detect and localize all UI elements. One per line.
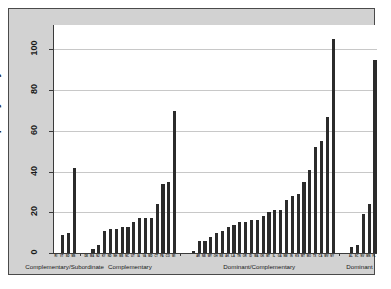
y-tick-label: 60 [29, 119, 39, 141]
bar [126, 227, 129, 253]
y-tick-label: 100 [29, 37, 39, 59]
bar [150, 218, 153, 253]
gridline [54, 90, 377, 91]
x-tick-label: FL [369, 255, 379, 259]
bar [291, 196, 294, 253]
bar [332, 39, 335, 253]
bar [244, 222, 247, 253]
bar [144, 218, 147, 253]
bar [61, 235, 64, 253]
bar [308, 170, 311, 253]
bar [173, 111, 176, 254]
y-axis-title: Number of policy analysts [0, 9, 3, 237]
bar [67, 233, 70, 253]
bar [368, 204, 371, 253]
bar [132, 222, 135, 253]
gridline [54, 49, 377, 50]
bar [227, 227, 230, 253]
group-separator [339, 253, 340, 256]
bar [103, 231, 106, 253]
y-tick-label: 20 [29, 200, 39, 222]
bar [320, 141, 323, 253]
bar [203, 241, 206, 253]
bar [267, 212, 270, 253]
bar [138, 218, 141, 253]
bar [215, 233, 218, 253]
group-label: Complementary/Subordinate [25, 263, 104, 270]
bar [97, 245, 100, 253]
bar [285, 200, 288, 253]
group-label: Dominant [346, 263, 372, 270]
y-tick-label: 80 [29, 78, 39, 100]
bar [156, 204, 159, 253]
bar [279, 210, 282, 253]
x-tick-label: MS [68, 255, 78, 259]
x-axis-line [53, 253, 377, 254]
bar [198, 241, 201, 253]
bar [238, 222, 241, 253]
bar [326, 117, 329, 253]
bar [314, 147, 317, 253]
bar [232, 225, 235, 254]
chart-panel: Number of policy analysts 020406080100 R… [8, 8, 375, 275]
group-separator [180, 253, 181, 256]
bar [302, 182, 305, 253]
bar [209, 237, 212, 253]
bar [167, 182, 170, 253]
group-label: Dominant/Complementary [223, 263, 295, 270]
bar [73, 168, 76, 254]
x-tick-label: WI [169, 255, 179, 259]
x-tick-label: NY [327, 255, 337, 259]
bar [262, 216, 265, 253]
bar [373, 60, 376, 253]
bar [362, 214, 365, 253]
bar [221, 231, 224, 253]
y-tick-label: 0 [29, 241, 39, 263]
bar [297, 194, 300, 253]
bar [109, 229, 112, 253]
y-tick-label: 40 [29, 160, 39, 182]
bar [250, 220, 253, 253]
bar [256, 220, 259, 253]
bar [356, 245, 359, 253]
group-separator [80, 253, 81, 256]
chart-figure: Number of policy analysts 020406080100 R… [0, 0, 391, 289]
bar [115, 229, 118, 253]
plot-area [53, 25, 377, 253]
bar [161, 184, 164, 253]
bar [273, 210, 276, 253]
bar [121, 227, 124, 253]
group-label: Complementary [108, 263, 152, 270]
